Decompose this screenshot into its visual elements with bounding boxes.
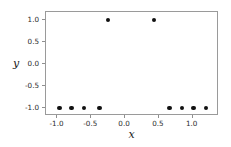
data-point [106,18,110,22]
data-point [204,106,208,110]
data-point [180,106,184,110]
x-tick-label: -1.0 [49,119,63,128]
x-tick-mark [158,115,159,118]
y-tick-label: -0.5 [25,81,39,90]
y-tick-mark [42,107,45,108]
data-point [97,106,101,110]
y-tick-mark [42,63,45,64]
y-tick-mark [42,41,45,42]
x-tick-mark [192,115,193,118]
x-tick-mark [56,115,57,118]
x-tick-label: 0.5 [152,119,163,128]
data-point [82,106,86,110]
x-tick-label: 0.0 [118,119,129,128]
y-tick-label: 0.0 [28,59,39,68]
data-point [167,106,171,110]
plot-area-frame [45,11,218,115]
x-tick-mark [124,115,125,118]
x-tick-label: 1.0 [186,119,197,128]
scatter-plot-figure: -1.0-0.50.00.51.0 1.00.50.0-0.5-1.0 x y [0,0,231,147]
y-tick-label: 1.0 [28,14,39,23]
x-axis-label: x [128,128,134,141]
y-tick-label: -1.0 [25,103,39,112]
data-point [191,106,195,110]
y-tick-mark [42,19,45,20]
x-tick-mark [90,115,91,118]
data-point [57,106,61,110]
x-tick-label: -0.5 [83,119,97,128]
data-points-layer [46,12,217,114]
y-axis-label: y [13,57,19,70]
data-point [152,18,156,22]
y-tick-label: 0.5 [28,36,39,45]
data-point [69,106,73,110]
y-tick-mark [42,85,45,86]
